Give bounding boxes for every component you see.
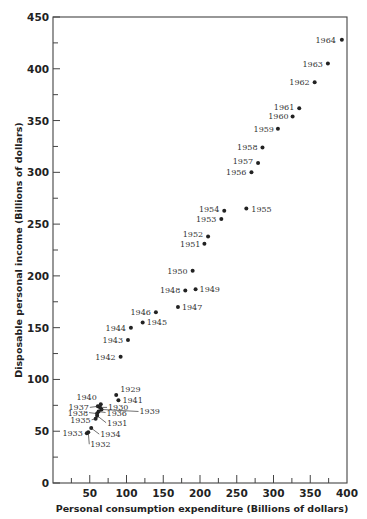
point-label: 1950 — [167, 267, 187, 276]
y-tick-label: 150 — [27, 322, 49, 334]
point-label: 1963 — [303, 60, 323, 69]
point-label: 1938 — [68, 409, 88, 418]
point-marker — [191, 269, 195, 273]
data-point: 1951 — [180, 240, 206, 249]
point-label: 1949 — [200, 285, 220, 294]
point-label: 1945 — [147, 318, 167, 327]
data-point: 1955 — [244, 205, 271, 214]
point-marker — [202, 242, 206, 246]
point-label: 1955 — [251, 205, 271, 214]
y-tick-label: 250 — [27, 218, 49, 230]
point-marker — [222, 209, 226, 213]
y-tick-label: 200 — [27, 270, 49, 282]
point-label: 1964 — [315, 36, 335, 45]
leader-line — [91, 428, 99, 434]
data-point: 1958 — [237, 143, 264, 152]
scatter-chart: 050100150200250300350400450 501001502002… — [0, 0, 367, 519]
point-marker — [291, 114, 295, 118]
y-tick-label: 0 — [42, 477, 49, 489]
point-label: 1947 — [182, 303, 202, 312]
point-label: 1944 — [106, 324, 126, 333]
x-tick-label: 300 — [263, 487, 285, 499]
point-marker — [256, 161, 260, 165]
x-axis: 50100150200250300350400 — [71, 475, 358, 499]
data-point: 1934 — [89, 426, 120, 439]
y-axis-title: Disposable personal income (Billions of … — [13, 122, 24, 377]
point-marker — [183, 288, 187, 292]
data-point: 1962 — [289, 78, 316, 87]
x-tick-label: 250 — [226, 487, 248, 499]
point-marker — [326, 62, 330, 66]
data-point: 1960 — [268, 112, 294, 121]
point-marker — [249, 170, 253, 174]
point-marker — [119, 355, 123, 359]
point-marker — [176, 305, 180, 309]
point-marker — [194, 287, 198, 291]
y-tick-label: 100 — [27, 373, 49, 385]
data-point: 1954 — [199, 205, 226, 214]
point-marker — [126, 338, 130, 342]
point-marker — [276, 127, 280, 131]
point-marker — [85, 431, 89, 435]
point-marker — [244, 207, 248, 211]
x-tick-label: 50 — [82, 487, 97, 499]
point-marker — [99, 402, 103, 406]
point-label: 1948 — [160, 286, 180, 295]
point-marker — [313, 80, 317, 84]
point-label: 1934 — [100, 430, 120, 439]
data-point: 1933 — [62, 429, 88, 438]
data-point: 1950 — [167, 267, 194, 276]
point-label: 1951 — [180, 240, 200, 249]
point-label: 1954 — [199, 205, 219, 214]
point-marker — [141, 320, 145, 324]
point-marker — [297, 106, 301, 110]
data-point: 1947 — [176, 303, 202, 312]
x-tick-label: 400 — [336, 487, 358, 499]
point-label: 1941 — [122, 396, 142, 405]
point-marker — [114, 393, 118, 397]
x-tick-label: 350 — [299, 487, 321, 499]
point-label: 1957 — [233, 157, 253, 166]
point-label: 1956 — [226, 168, 246, 177]
data-point: 1956 — [226, 168, 253, 177]
point-marker — [219, 217, 223, 221]
point-marker — [116, 398, 120, 402]
point-label: 1946 — [131, 308, 151, 317]
data-point: 1959 — [254, 125, 280, 134]
x-tick-label: 150 — [152, 487, 174, 499]
y-tick-label: 300 — [27, 166, 49, 178]
y-tick-label: 350 — [27, 115, 49, 127]
data-points: 1929193019311932193319341935193619371938… — [62, 36, 343, 449]
point-label: 1943 — [103, 336, 123, 345]
x-tick-label: 100 — [116, 487, 138, 499]
data-point: 1953 — [196, 215, 223, 224]
data-point: 1961 — [274, 103, 301, 112]
leader-line — [97, 416, 106, 423]
point-marker — [154, 310, 158, 314]
data-point: 1952 — [183, 230, 210, 239]
data-point: 1942 — [95, 353, 122, 362]
point-label: 1960 — [268, 112, 288, 121]
point-label: 1952 — [183, 230, 203, 239]
point-label: 1931 — [107, 419, 127, 428]
data-point: 1963 — [303, 60, 330, 69]
data-point: 1964 — [315, 36, 343, 45]
data-point: 1944 — [106, 324, 133, 333]
point-marker — [260, 145, 264, 149]
data-point: 1949 — [194, 285, 220, 294]
point-label: 1939 — [140, 407, 160, 416]
point-label: 1940 — [76, 393, 96, 402]
point-label: 1958 — [237, 143, 257, 152]
point-label: 1961 — [274, 103, 294, 112]
data-point: 1938 — [68, 409, 99, 418]
point-label: 1942 — [95, 353, 115, 362]
point-label: 1932 — [90, 440, 110, 449]
point-label: 1962 — [289, 78, 309, 87]
point-label: 1933 — [62, 429, 82, 438]
data-point: 1957 — [233, 157, 260, 166]
point-marker — [340, 38, 344, 42]
point-label: 1959 — [254, 125, 274, 134]
x-tick-label: 200 — [189, 487, 211, 499]
y-axis: 050100150200250300350400450 — [27, 11, 60, 489]
point-label: 1929 — [120, 385, 140, 394]
